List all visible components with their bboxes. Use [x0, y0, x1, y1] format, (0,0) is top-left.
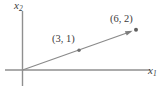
- arrowhead-icon: [125, 31, 133, 36]
- x-axis-label-subscript: 1: [153, 69, 157, 78]
- plot-canvas: [0, 0, 164, 89]
- vector-ray: [23, 32, 132, 71]
- point-label-3-1: (3, 1): [52, 34, 75, 45]
- x-axis-label: x1: [148, 65, 157, 78]
- data-point-marker-2: [134, 28, 138, 32]
- coordinate-plot-figure: x2 x1 (3, 1) (6, 2): [0, 0, 164, 89]
- point-label-6-2: (6, 2): [110, 14, 133, 25]
- data-point-marker-1: [77, 49, 80, 52]
- y-axis-label-subscript: 2: [19, 4, 23, 13]
- y-axis-label: x2: [14, 0, 23, 13]
